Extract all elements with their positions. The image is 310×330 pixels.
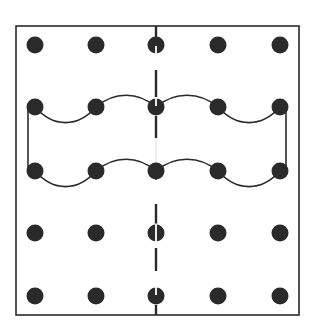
dot-r4-c4	[272, 288, 289, 305]
dot-grid-symmetry-diagram	[0, 0, 310, 330]
dot-r2-c4	[272, 163, 289, 180]
dot-r2-c2	[148, 163, 165, 180]
dot-r4-c0	[27, 288, 44, 305]
dot-grid	[27, 37, 289, 305]
diagram-canvas	[0, 0, 310, 330]
dot-r2-c3	[210, 163, 227, 180]
dot-r3-c3	[210, 225, 227, 242]
dot-r3-c0	[27, 225, 44, 242]
dot-r1-c3	[210, 99, 227, 116]
dot-r2-c1	[88, 163, 105, 180]
dot-r0-c1	[88, 37, 105, 54]
dot-r0-c3	[210, 37, 227, 54]
dot-r1-c0	[27, 99, 44, 116]
dot-r3-c1	[88, 225, 105, 242]
dot-r2-c0	[27, 163, 44, 180]
dot-r1-c4	[272, 99, 289, 116]
dot-r1-c1	[88, 99, 105, 116]
dot-r4-c3	[210, 288, 227, 305]
dot-r0-c4	[272, 37, 289, 54]
dot-r4-c1	[88, 288, 105, 305]
dot-r3-c4	[272, 225, 289, 242]
dot-r0-c0	[27, 37, 44, 54]
